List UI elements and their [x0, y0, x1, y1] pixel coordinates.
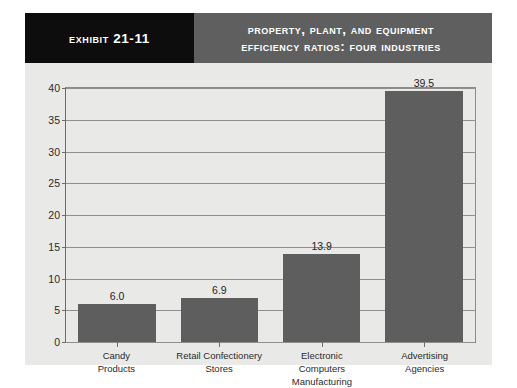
bar — [385, 91, 463, 342]
y-tick-label: 20 — [48, 209, 60, 221]
x-axis-category-label: ElectronicComputers Manufacturing — [271, 349, 374, 388]
x-axis-category-line: Agencies — [373, 362, 476, 375]
bar-value-label: 6.9 — [168, 284, 270, 296]
bar-slot: 6.0 — [66, 88, 168, 342]
x-tick-mark — [219, 342, 220, 347]
x-tick-mark — [322, 342, 323, 347]
y-tick-label: 10 — [48, 273, 60, 285]
bar-slot: 13.9 — [271, 88, 373, 342]
bar-series: 6.06.913.939.5 — [66, 88, 475, 342]
plot-frame: 0510152025303540 6.06.913.939.5 — [65, 87, 476, 343]
bar-slot: 39.5 — [373, 88, 475, 342]
y-tick-label: 25 — [48, 177, 60, 189]
x-axis-category-line: Computers Manufacturing — [271, 362, 374, 388]
bar — [181, 298, 259, 342]
exhibit-title-line-1: Property, Plant, and Equipment — [248, 21, 434, 38]
y-tick-label: 30 — [48, 146, 60, 158]
bar — [78, 304, 156, 342]
y-tick-label: 15 — [48, 241, 60, 253]
y-tick-label: 35 — [48, 114, 60, 126]
x-axis-category-label: CandyProducts — [65, 349, 168, 375]
bar-value-label: 39.5 — [373, 77, 475, 89]
exhibit-number-block: Exhibit 21-11 — [25, 13, 194, 63]
bar-value-label: 6.0 — [66, 290, 168, 302]
x-axis-category-line: Products — [65, 362, 168, 375]
x-axis-category-label: AdvertisingAgencies — [373, 349, 476, 375]
bar-slot: 6.9 — [168, 88, 270, 342]
x-axis-category-line: Candy — [65, 349, 168, 362]
x-axis-category-line: Retail Confectionery — [168, 349, 271, 362]
y-tick-label: 40 — [48, 82, 60, 94]
x-axis-category-line: Electronic — [271, 349, 374, 362]
exhibit-title-line-2: Efficiency Ratios: Four Industries — [241, 38, 441, 55]
exhibit-header: Exhibit 21-11 Property, Plant, and Equip… — [25, 13, 492, 63]
chart-area: 0510152025303540 6.06.913.939.5 CandyPro… — [25, 63, 492, 365]
y-tick-label: 0 — [54, 336, 60, 348]
exhibit-title-block: Property, Plant, and Equipment Efficienc… — [194, 13, 492, 63]
x-axis-category-line: Advertising — [373, 349, 476, 362]
exhibit-panel: Exhibit 21-11 Property, Plant, and Equip… — [25, 13, 492, 365]
x-axis-category-label: Retail ConfectioneryStores — [168, 349, 271, 375]
bar-value-label: 13.9 — [271, 240, 373, 252]
x-axis-category-line: Stores — [168, 362, 271, 375]
x-axis-labels: CandyProductsRetail ConfectioneryStoresE… — [65, 349, 476, 388]
y-tick-mark — [62, 342, 66, 343]
x-tick-mark — [424, 342, 425, 347]
exhibit-number-label: Exhibit 21-11 — [69, 31, 150, 46]
gridline — [66, 342, 475, 343]
bar — [283, 254, 361, 342]
y-tick-label: 5 — [54, 304, 60, 316]
x-tick-mark — [117, 342, 118, 347]
